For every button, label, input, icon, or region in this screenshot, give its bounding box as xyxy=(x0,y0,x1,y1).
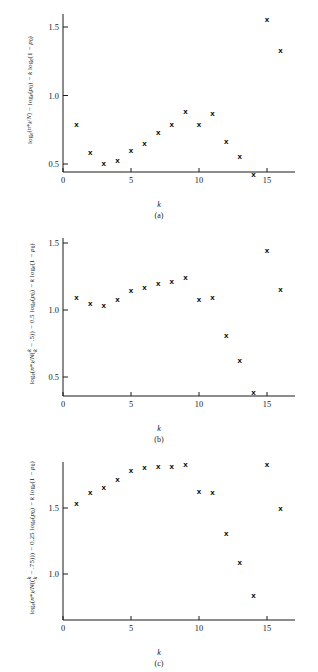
data-point: x xyxy=(170,120,175,129)
data-point: x xyxy=(115,156,120,165)
data-point: x xyxy=(238,558,243,567)
svg-text:0: 0 xyxy=(61,400,65,409)
svg-text:5: 5 xyxy=(129,624,133,633)
data-point: x xyxy=(278,285,283,294)
data-point: x xyxy=(102,483,107,492)
data-point: x xyxy=(74,120,79,129)
data-point: x xyxy=(278,46,283,55)
svg-text:5: 5 xyxy=(129,176,133,185)
data-point: x xyxy=(156,128,161,137)
panel-a-caption: (a) xyxy=(0,211,318,220)
svg-text:1.5: 1.5 xyxy=(49,239,59,248)
figure-three-panel-scatter: loge(n*k/N) − loge(p0) − k loge(1 − p0) … xyxy=(0,0,318,672)
svg-text:1.0: 1.0 xyxy=(49,570,59,579)
data-point: x xyxy=(129,286,134,295)
data-point: x xyxy=(156,462,161,471)
data-point: x xyxy=(170,462,175,471)
data-point: x xyxy=(74,499,79,508)
data-point: x xyxy=(102,301,107,310)
data-point: x xyxy=(142,139,147,148)
data-point: x xyxy=(278,504,283,513)
panel-c: loge(n*k/N((kk − .75))) − 0.25 loge(p0) … xyxy=(0,448,318,672)
data-point: x xyxy=(224,529,229,538)
svg-text:0: 0 xyxy=(61,624,65,633)
panel-b-caption: (b) xyxy=(0,435,318,444)
data-point: x xyxy=(210,109,215,118)
svg-text:0: 0 xyxy=(61,176,65,185)
data-point: x xyxy=(238,356,243,365)
panel-b-x-axis-label: k xyxy=(0,424,318,433)
data-point: x xyxy=(210,488,215,497)
svg-text:1.0: 1.0 xyxy=(49,306,59,315)
data-point: x xyxy=(129,466,134,475)
data-point: x xyxy=(74,293,79,302)
data-point: x xyxy=(265,246,270,255)
svg-text:1.5: 1.5 xyxy=(49,23,59,32)
svg-text:1.5: 1.5 xyxy=(49,504,59,513)
data-point: x xyxy=(224,331,229,340)
data-point: x xyxy=(238,152,243,161)
data-point: x xyxy=(142,283,147,292)
data-point: x xyxy=(183,273,188,282)
data-point: x xyxy=(265,460,270,469)
data-point: x xyxy=(251,388,256,397)
data-point: x xyxy=(88,148,93,157)
data-point: x xyxy=(224,137,229,146)
data-point: x xyxy=(129,146,134,155)
data-point: x xyxy=(115,295,120,304)
data-point: x xyxy=(170,277,175,286)
svg-text:15: 15 xyxy=(263,400,271,409)
panel-c-plot: 0510151.01.5xxxxxxxxxxxxxxxx xyxy=(0,448,318,672)
svg-text:10: 10 xyxy=(195,400,203,409)
panel-c-x-axis-label: k xyxy=(0,648,318,657)
panel-b: loge(n*k/N(kk − .5)) − 0.5 loge(p0) − k … xyxy=(0,224,318,448)
data-point: x xyxy=(156,279,161,288)
panel-a-x-axis-label: k xyxy=(0,200,318,209)
svg-text:15: 15 xyxy=(263,624,271,633)
panel-c-caption: (c) xyxy=(0,659,318,668)
data-point: x xyxy=(197,120,202,129)
data-point: x xyxy=(251,170,256,179)
svg-text:10: 10 xyxy=(195,176,203,185)
panel-a-plot: 0510150.51.01.5xxxxxxxxxxxxxxxx xyxy=(0,0,318,224)
data-point: x xyxy=(251,591,256,600)
svg-text:15: 15 xyxy=(263,176,271,185)
panel-a: loge(n*k/N) − loge(p0) − k loge(1 − p0) … xyxy=(0,0,318,224)
svg-text:0.5: 0.5 xyxy=(49,160,59,169)
data-point: x xyxy=(183,460,188,469)
data-point: x xyxy=(210,293,215,302)
data-point: x xyxy=(115,475,120,484)
data-point: x xyxy=(88,488,93,497)
data-point: x xyxy=(142,463,147,472)
svg-text:1.0: 1.0 xyxy=(49,92,59,101)
data-point: x xyxy=(183,107,188,116)
panel-b-plot: 0510150.51.01.5xxxxxxxxxxxxxxxx xyxy=(0,224,318,448)
svg-text:0.5: 0.5 xyxy=(49,373,59,382)
svg-text:5: 5 xyxy=(129,400,133,409)
data-point: x xyxy=(197,295,202,304)
svg-text:10: 10 xyxy=(195,624,203,633)
data-point: x xyxy=(88,299,93,308)
data-point: x xyxy=(197,487,202,496)
data-point: x xyxy=(265,15,270,24)
data-point: x xyxy=(102,159,107,168)
